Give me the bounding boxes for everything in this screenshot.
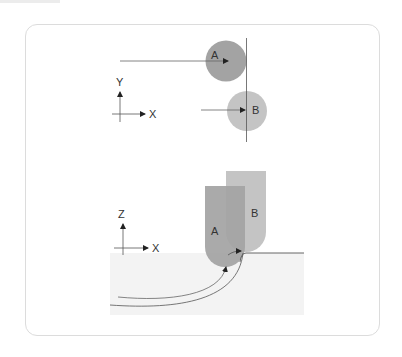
axis-y-label: Y	[116, 76, 124, 88]
axis-z-label: Z	[118, 208, 125, 220]
tool-b-circle	[227, 91, 267, 131]
tool-path-diagram: Y X A B Z X	[0, 0, 402, 357]
xy-axis-icon: Y X	[112, 76, 157, 122]
tool-b-label-side: B	[251, 207, 258, 219]
axis-x-label-side: X	[152, 242, 160, 254]
workpiece-surface	[110, 253, 304, 315]
tool-a-label-side: A	[211, 225, 219, 237]
side-view: Z X A B	[110, 171, 304, 315]
tool-a-label: A	[211, 49, 219, 61]
tool-b-label: B	[252, 104, 259, 116]
top-view: Y X A B	[112, 38, 267, 142]
axis-x-label: X	[149, 108, 157, 120]
zx-axis-icon: Z X	[114, 208, 160, 255]
